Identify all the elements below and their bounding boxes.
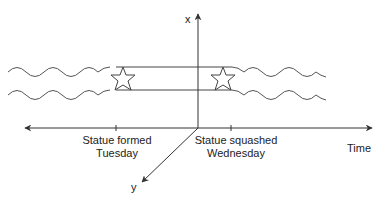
wave-upper-right [232, 67, 326, 77]
wave-lower-left [8, 90, 110, 100]
event-label-squashed: Statue squashed Wednesday [193, 134, 279, 160]
wave-upper-left [8, 67, 110, 77]
event-label-squashed-line1: Statue squashed [193, 134, 279, 147]
spacetime-diagram [0, 0, 381, 200]
time-axis-label: Time [347, 142, 371, 155]
star-icon [211, 67, 235, 90]
event-label-squashed-line2: Wednesday [193, 147, 279, 160]
x-axis-label: x [185, 13, 191, 26]
star-icon [111, 67, 135, 90]
y-axis-label: y [131, 181, 137, 194]
event-label-formed-line2: Tuesday [82, 147, 152, 160]
event-label-formed-line1: Statue formed [82, 134, 152, 147]
event-label-formed: Statue formed Tuesday [82, 134, 152, 160]
wave-lower-right [232, 90, 326, 100]
